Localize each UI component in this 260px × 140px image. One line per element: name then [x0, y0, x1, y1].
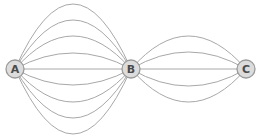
- diagram-canvas: A B C: [0, 0, 260, 140]
- edge-a-b: [15, 69, 131, 118]
- edge-a-b: [15, 20, 131, 69]
- node-c: C: [237, 60, 255, 78]
- edge-a-b: [15, 69, 131, 85]
- edges-a-b: [15, 4, 131, 134]
- node-b: B: [122, 60, 140, 78]
- edge-b-c: [131, 69, 246, 86]
- edge-a-b: [15, 53, 131, 69]
- node-b-label: B: [127, 63, 135, 76]
- edge-b-c: [131, 52, 246, 69]
- edges-b-c: [131, 36, 246, 102]
- node-a: A: [6, 60, 24, 78]
- node-a-label: A: [11, 63, 20, 76]
- multigraph-diagram: A B C: [0, 0, 260, 140]
- node-c-label: C: [242, 63, 250, 76]
